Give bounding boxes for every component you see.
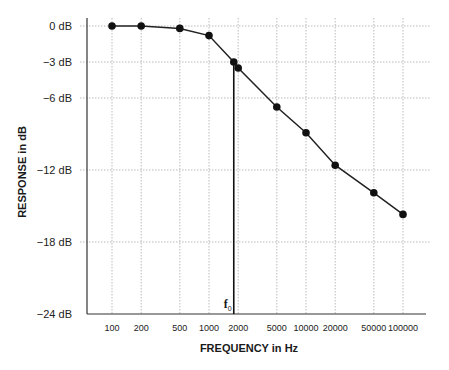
y-tick-label: −12 dB [37, 164, 72, 176]
data-point [108, 22, 116, 30]
f0-subscript: 0 [228, 305, 232, 312]
x-tick-label: 1000 [199, 323, 219, 333]
y-tick-label: −6 dB [43, 92, 72, 104]
data-point [273, 103, 281, 111]
vertical-gridlines [112, 18, 403, 314]
data-point [205, 32, 213, 40]
x-tick-label: 100000 [388, 323, 418, 333]
horizontal-gridlines [80, 26, 430, 242]
y-tick-label: −24 dB [37, 308, 72, 320]
y-tick-label: 0 dB [49, 20, 72, 32]
y-tick-label: −3 dB [43, 56, 72, 68]
x-tick-labels: 1002005001000200050001000020000500001000… [104, 323, 418, 333]
data-point [370, 189, 378, 197]
frequency-response-chart: 0 dB−3 dB−6 dB−12 dB−18 dB−24 dB 1002005… [0, 0, 449, 370]
data-points [108, 22, 407, 218]
x-axis-title: FREQUENCY in Hz [200, 342, 299, 354]
data-point [302, 129, 310, 137]
x-tick-label: 100 [104, 323, 119, 333]
data-point [137, 22, 145, 30]
data-point [234, 64, 242, 72]
y-tick-label: −18 dB [37, 236, 72, 248]
x-tick-label: 5000 [267, 323, 287, 333]
data-point [176, 25, 184, 33]
y-axis-title: RESPONSE in dB [16, 126, 28, 218]
cutoff-frequency-label: f 0 [224, 297, 232, 312]
data-point [331, 161, 339, 169]
x-tick-label: 2000 [228, 323, 248, 333]
x-tick-label: 20000 [323, 323, 348, 333]
response-curve [112, 26, 403, 214]
x-tick-label: 500 [172, 323, 187, 333]
y-tick-labels: 0 dB−3 dB−6 dB−12 dB−18 dB−24 dB [37, 20, 72, 320]
x-tick-label: 10000 [293, 323, 318, 333]
x-tick-label: 50000 [361, 323, 386, 333]
x-tick-label: 200 [134, 323, 149, 333]
data-point [399, 211, 407, 219]
